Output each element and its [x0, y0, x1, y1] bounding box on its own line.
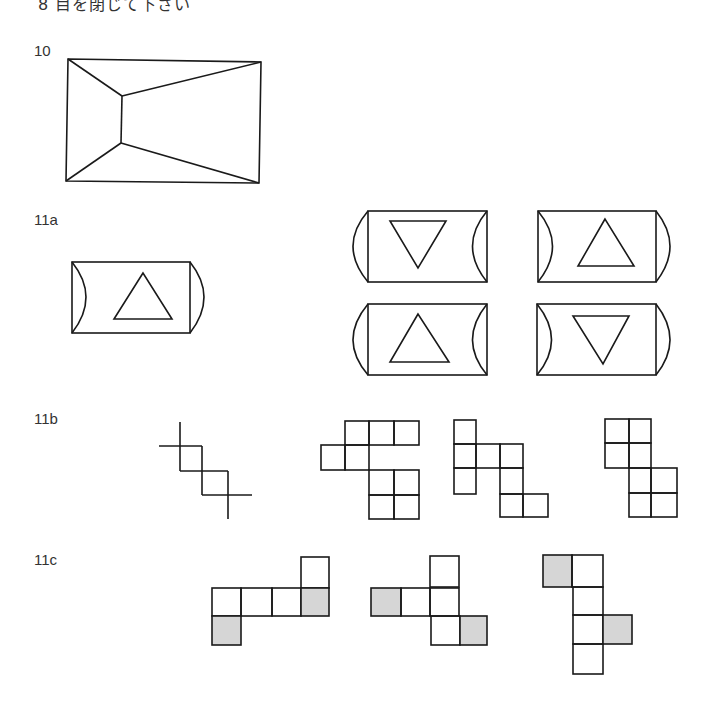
figures-canvas	[0, 0, 707, 713]
figure-11c-option-3	[543, 555, 632, 674]
figure-11b-option-2	[454, 420, 548, 517]
figure-11b-option-3	[605, 419, 677, 517]
figure-11b-model	[159, 422, 252, 519]
figure-10-room	[66, 59, 261, 183]
figure-11a-option-3	[353, 304, 487, 375]
figure-11c-option-2	[371, 556, 487, 645]
figure-11a-model	[72, 262, 204, 333]
figure-11a-option-1	[353, 211, 487, 282]
figure-11c-option-1	[212, 557, 329, 645]
figure-11b-option-1	[321, 421, 419, 519]
figure-11a-option-2	[538, 211, 670, 282]
figure-11a-option-4	[537, 304, 670, 375]
